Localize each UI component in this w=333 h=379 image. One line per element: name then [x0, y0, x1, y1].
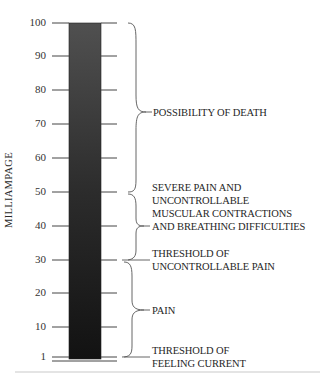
- label-severe-pain: SEVERE PAIN AND UNCONTROLLABLE MUSCULAR …: [152, 181, 305, 233]
- tick-label-20: 20: [20, 286, 46, 298]
- tick-label-80: 80: [20, 83, 46, 95]
- tick-label-40: 40: [20, 219, 46, 231]
- tick-label-100: 100: [20, 16, 46, 28]
- tick-label-50: 50: [20, 185, 46, 197]
- tick-label-90: 90: [20, 49, 46, 61]
- label-threshold-feeling-current: THRESHOLD OF FEELING CURRENT: [152, 344, 246, 370]
- y-axis-label: MILLIAMPAGE: [3, 152, 14, 228]
- label-pain: PAIN: [152, 304, 175, 317]
- braces: [122, 23, 152, 357]
- tick-label-60: 60: [20, 151, 46, 163]
- tick-label-30: 30: [20, 253, 46, 265]
- tick-label-10: 10: [20, 320, 46, 332]
- label-threshold-uncontrollable-pain: THRESHOLD OF UNCONTROLLABLE PAIN: [152, 247, 275, 273]
- tick-label-70: 70: [20, 117, 46, 129]
- label-possibility-of-death: POSSIBILITY OF DEATH: [153, 106, 267, 119]
- tick-label-1: 1: [20, 350, 46, 362]
- current-bar: [69, 23, 101, 359]
